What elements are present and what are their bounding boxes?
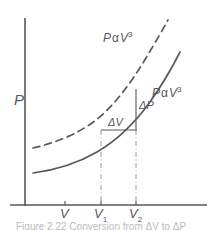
delta-v-label: ΔV	[108, 117, 123, 128]
solid-curve-label: PαV3	[152, 87, 181, 99]
dashed-curve	[33, 20, 168, 148]
solid-curve-label-base: P	[152, 86, 160, 100]
x-tick-label-v2-text: V	[129, 206, 138, 221]
dashed-curve-label-relation: α	[111, 31, 120, 45]
dashed-curve-label-var: V	[120, 31, 128, 45]
solid-curve-label-exponent: 3	[177, 85, 181, 94]
x-tick-label-v1: V1	[94, 207, 107, 220]
x-tick-label-v1-text: V	[94, 206, 103, 221]
figure-container: P PαV3 PαV3 ΔV ΔP V V1 V2 Figure 2.22 Co…	[0, 0, 215, 230]
delta-p-label: ΔP	[139, 100, 154, 111]
x-tick-label-v2: V2	[129, 207, 142, 220]
dashed-curve-label-exponent: 3	[128, 30, 132, 39]
x-tick-label-v-text: V	[60, 206, 69, 221]
solid-curve-label-var: V	[169, 86, 177, 100]
x-tick-label-v: V	[60, 207, 69, 220]
dashed-curve-label: PαV3	[103, 32, 132, 44]
dashed-curve-label-base: P	[103, 31, 111, 45]
solid-curve-label-relation: α	[160, 86, 169, 100]
y-axis-label: P	[14, 92, 24, 107]
figure-caption: Figure 2.22 Conversion from ΔV to ΔP	[16, 221, 215, 230]
solid-curve	[33, 52, 180, 173]
